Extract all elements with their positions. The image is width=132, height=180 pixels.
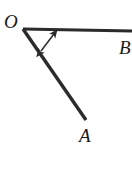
point-label-B: B — [119, 37, 131, 58]
ray-OB-line — [23, 29, 132, 31]
angle-diagram-canvas: O A B — [0, 0, 132, 180]
vertex-label-O: O — [4, 11, 18, 32]
angle-diagram-svg: O A B — [0, 0, 132, 180]
point-label-A: A — [77, 125, 91, 146]
